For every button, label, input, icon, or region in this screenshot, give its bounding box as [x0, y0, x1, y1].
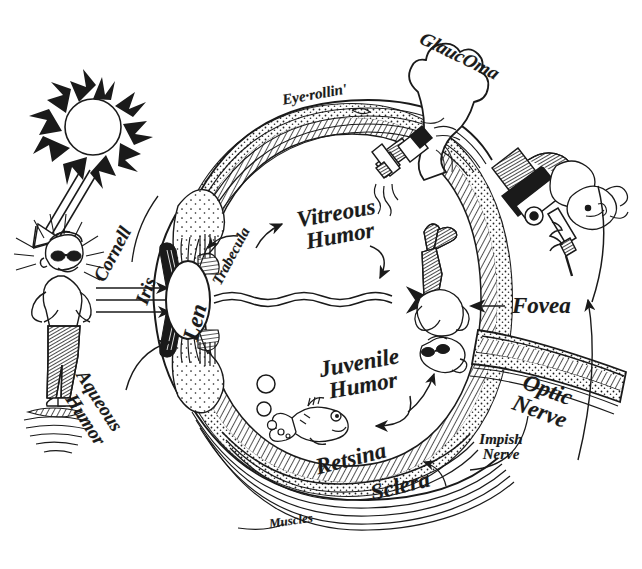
- eye-diagram-artwork: [0, 0, 642, 569]
- illustration-page: Eye·rollin' GlaucOma Cornell Iris Len Tr…: [0, 0, 642, 569]
- lens-shape: [166, 261, 210, 339]
